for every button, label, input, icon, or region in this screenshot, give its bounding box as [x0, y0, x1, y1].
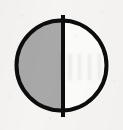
left-half-filled: [16, 19, 63, 113]
right-half-empty: [63, 19, 110, 113]
symbol-canvas: [0, 0, 123, 130]
half-filled-circle-symbol: [0, 0, 123, 130]
